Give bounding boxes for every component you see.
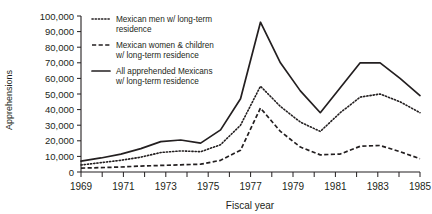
y-tick-label: 20,000	[45, 135, 74, 146]
y-tick-label: 10,000	[45, 151, 74, 162]
y-tick-label: 80,000	[45, 42, 74, 53]
y-tick-label: 60,000	[45, 73, 74, 84]
chart-figure: Apprehensions 100,000 90,000 80,000 70,0…	[0, 0, 432, 214]
y-tick-label: 50,000	[45, 89, 74, 100]
x-tick-label: 1975	[197, 181, 220, 192]
y-tick-label: 0	[69, 167, 74, 178]
legend-label-3-line1: All apprehended Mexicans	[116, 67, 213, 76]
legend: Mexican men w/ long-term residence Mexic…	[92, 15, 214, 86]
y-tick-label: 40,000	[45, 104, 74, 115]
x-tick-label: 1985	[409, 181, 432, 192]
legend-label-2-line1: Mexican women & children	[116, 41, 214, 50]
x-tick-label: 1969	[70, 181, 93, 192]
x-tick-label: 1971	[112, 181, 135, 192]
x-tick-label: 1973	[155, 181, 178, 192]
line-chart-svg: Apprehensions 100,000 90,000 80,000 70,0…	[0, 0, 432, 214]
x-axis-title: Fiscal year	[226, 200, 275, 211]
x-tick-label: 1979	[282, 181, 305, 192]
x-tick-label: 1981	[324, 181, 347, 192]
y-tick-marks	[77, 16, 81, 172]
legend-label-2-line2: w/ long-term residence	[115, 51, 199, 60]
legend-label-1-line2: residence	[116, 25, 152, 34]
y-tick-label: 100,000	[40, 11, 74, 22]
x-tick-label: 1977	[239, 181, 262, 192]
legend-label-1-line1: Mexican men w/ long-term	[116, 15, 212, 24]
y-tick-label: 90,000	[45, 26, 74, 37]
y-axis-title: Apprehensions	[4, 69, 14, 130]
x-tick-label: 1983	[367, 181, 390, 192]
series-line-mexican-men	[81, 86, 420, 165]
y-tick-label: 70,000	[45, 57, 74, 68]
y-tick-label: 30,000	[45, 120, 74, 131]
legend-label-3-line2: w/ long-term residence	[115, 77, 199, 86]
x-tick-marks	[81, 172, 420, 177]
